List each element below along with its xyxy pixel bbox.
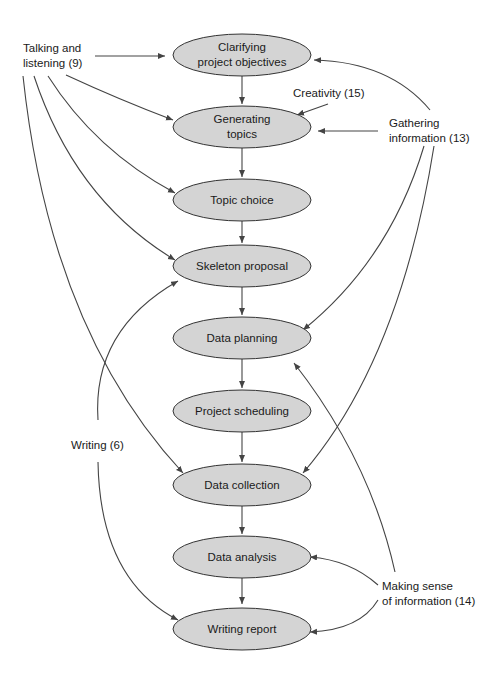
label-gathering-information: Gathering information (13)	[389, 117, 470, 144]
svg-text:of information (14): of information (14)	[382, 595, 475, 607]
node-project-scheduling: Project scheduling	[173, 390, 311, 432]
svg-text:project objectives: project objectives	[198, 56, 287, 68]
svg-text:Writing report: Writing report	[208, 623, 278, 635]
node-data-analysis: Data analysis	[173, 536, 311, 578]
svg-text:Generating: Generating	[214, 113, 271, 125]
svg-text:Skeleton proposal: Skeleton proposal	[196, 260, 288, 272]
project-process-diagram: Clarifying project objectives Generating…	[0, 0, 492, 677]
label-talking-listening: Talking and listening (9)	[23, 42, 83, 69]
label-making-sense: Making sense of information (14)	[382, 580, 475, 607]
svg-text:Creativity (15): Creativity (15)	[293, 87, 365, 99]
node-data-planning: Data planning	[173, 317, 311, 359]
label-creativity: Creativity (15)	[293, 87, 365, 99]
label-writing: Writing (6)	[71, 439, 124, 451]
svg-text:Data analysis: Data analysis	[207, 551, 276, 563]
svg-text:information (13): information (13)	[389, 132, 470, 144]
svg-text:topics: topics	[227, 128, 257, 140]
creativity-arrow	[297, 104, 328, 115]
svg-text:Project scheduling: Project scheduling	[195, 405, 289, 417]
svg-text:Topic choice: Topic choice	[210, 194, 273, 206]
svg-text:Making sense: Making sense	[382, 580, 453, 592]
node-clarifying-objectives: Clarifying project objectives	[173, 34, 311, 76]
svg-text:listening (9): listening (9)	[23, 57, 83, 69]
svg-text:Talking and: Talking and	[23, 42, 81, 54]
node-data-collection: Data collection	[173, 464, 311, 506]
sense-arrows	[294, 363, 395, 632]
node-generating-topics: Generating topics	[173, 106, 311, 148]
svg-text:Data planning: Data planning	[207, 332, 278, 344]
svg-text:Clarifying: Clarifying	[218, 41, 266, 53]
svg-text:Writing (6): Writing (6)	[71, 439, 124, 451]
talking-arrows	[23, 56, 183, 473]
node-skeleton-proposal: Skeleton proposal	[173, 245, 311, 287]
node-topic-choice: Topic choice	[173, 179, 311, 221]
svg-text:Gathering: Gathering	[389, 117, 440, 129]
svg-text:Data collection: Data collection	[204, 479, 279, 491]
node-writing-report: Writing report	[173, 608, 311, 650]
